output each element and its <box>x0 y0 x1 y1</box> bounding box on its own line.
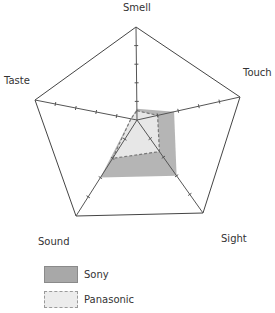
axis-tick <box>116 114 117 118</box>
axis-label-smell: Smell <box>123 2 151 13</box>
sony-swatch <box>44 266 78 283</box>
axis-line-smell <box>136 27 137 120</box>
series-panasonic <box>113 111 160 159</box>
legend: Sony Panasonic <box>44 266 134 313</box>
axis-tick <box>55 102 56 106</box>
axis-tick <box>198 104 199 108</box>
axis-label-taste: Taste <box>4 75 30 86</box>
legend-item-panasonic: Panasonic <box>44 291 134 308</box>
panasonic-swatch <box>44 291 78 308</box>
axis-line-touch <box>137 97 240 120</box>
legend-label-panasonic: Panasonic <box>84 294 134 305</box>
axis-tick <box>75 106 76 110</box>
axis-label-sound: Sound <box>38 236 70 247</box>
legend-label-sony: Sony <box>84 269 109 280</box>
radar-chart <box>0 0 275 313</box>
axis-tick <box>219 100 220 104</box>
legend-item-sony: Sony <box>44 266 134 283</box>
axis-label-sight: Sight <box>221 233 247 244</box>
axis-tick <box>96 110 97 114</box>
axis-tick <box>178 109 179 113</box>
axis-label-touch: Touch <box>243 67 272 78</box>
axis-line-taste <box>35 100 137 120</box>
